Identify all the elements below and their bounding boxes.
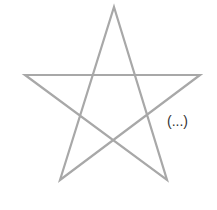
star-diagram	[0, 0, 217, 210]
pentagram-star-shape	[25, 7, 200, 180]
ellipsis-annotation: (...)	[167, 113, 188, 129]
